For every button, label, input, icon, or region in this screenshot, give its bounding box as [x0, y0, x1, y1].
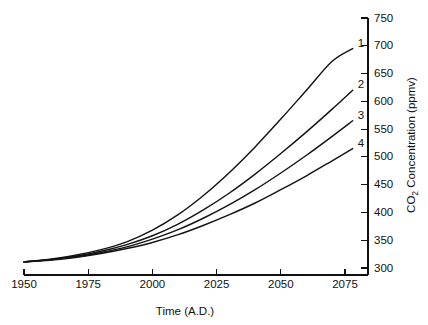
x-tick-label: 2000	[140, 278, 166, 290]
x-tick-label: 1950	[11, 278, 37, 290]
series-label-2: 2	[358, 78, 364, 90]
series-line-4	[24, 149, 353, 262]
y-tick-label: 300	[374, 262, 393, 274]
x-tick-label: 2025	[204, 278, 230, 290]
y-tick-label: 450	[374, 178, 393, 190]
co2-projection-chart: 195019752000202520502075 300350400450500…	[0, 0, 428, 325]
chart-canvas: 195019752000202520502075 300350400450500…	[0, 0, 428, 325]
series-lines	[24, 49, 353, 262]
series-line-3	[24, 121, 353, 262]
x-axis-title: Time (A.D.)	[156, 305, 215, 317]
x-tick-label: 2075	[332, 278, 358, 290]
x-tick-label: 1975	[75, 278, 101, 290]
y-axis: 300350400450500550600650700750	[361, 12, 393, 275]
y-tick-label: 750	[374, 12, 393, 24]
y-axis-title-text: CO2 Concentration (ppmv)	[405, 77, 420, 213]
y-axis-title-suffix: Concentration (ppmv)	[405, 77, 417, 191]
series-label-1: 1	[358, 37, 364, 49]
series-end-labels: 1234	[358, 37, 365, 149]
y-tick-label: 550	[374, 123, 393, 135]
y-tick-label: 600	[374, 95, 393, 107]
x-axis: 195019752000202520502075	[11, 269, 368, 290]
x-tick-label: 2050	[268, 278, 294, 290]
y-tick-label: 400	[374, 206, 393, 218]
series-label-3: 3	[358, 109, 364, 121]
y-tick-label: 650	[374, 67, 393, 79]
y-tick-label: 350	[374, 234, 393, 246]
series-line-2	[24, 90, 353, 262]
series-line-1	[24, 49, 353, 262]
y-tick-label: 500	[374, 150, 393, 162]
y-tick-label: 700	[374, 39, 393, 51]
y-axis-title: CO2 Concentration (ppmv)	[405, 77, 420, 213]
y-axis-title-prefix: CO	[405, 196, 417, 213]
series-label-4: 4	[358, 137, 365, 149]
